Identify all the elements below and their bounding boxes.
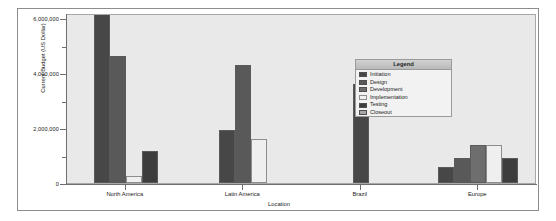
- legend-swatch-development: [359, 87, 367, 92]
- y-axis-line: [66, 14, 67, 185]
- plot-area: [66, 14, 536, 184]
- legend-label: Development: [370, 86, 402, 94]
- legend-swatch-design: [359, 80, 367, 85]
- legend-swatch-testing: [359, 103, 367, 108]
- x-axis-category-label: Latin America: [202, 191, 282, 197]
- chart-frame: 6,000,0004,000,0002,000,0000 Current Bud…: [17, 8, 539, 211]
- x-axis-category-label: Europe: [437, 191, 517, 197]
- legend-label: Closeout: [370, 109, 392, 117]
- legend-item-testing: Testing: [359, 101, 449, 109]
- bar-design-europe: [454, 158, 470, 183]
- x-axis-tick: [242, 185, 243, 190]
- y-axis-minor-tick: [62, 157, 66, 158]
- x-axis-category-label: North America: [85, 191, 165, 197]
- x-axis-tick: [477, 185, 478, 190]
- y-axis-minor-tick: [62, 47, 66, 48]
- bar-initiation-europe: [438, 167, 454, 183]
- legend-title: Legend: [356, 60, 451, 70]
- bar-development-europe: [470, 145, 486, 183]
- legend-label: Testing: [370, 101, 387, 109]
- bar-implementation-latin-america: [251, 139, 267, 183]
- legend-swatch-closeout: [359, 110, 367, 115]
- y-axis-tick: [60, 74, 66, 75]
- legend-label: Implementation: [370, 94, 408, 102]
- y-axis-tick-labels: 6,000,0004,000,0002,000,0000: [18, 9, 59, 194]
- legend-item-implementation: Implementation: [359, 94, 449, 102]
- x-axis-line: [66, 184, 537, 185]
- y-axis-minor-tick: [62, 102, 66, 103]
- bar-testing-europe: [502, 158, 518, 183]
- x-axis-category-label: Brazil: [320, 191, 400, 197]
- y-axis-tick-label: 0: [56, 181, 59, 187]
- x-axis-title: Location: [18, 201, 540, 207]
- legend-item-design: Design: [359, 79, 449, 87]
- legend-swatch-implementation: [359, 95, 367, 100]
- bar-initiation-north-america: [94, 15, 110, 183]
- y-axis-tick: [60, 184, 66, 185]
- legend-item-closeout: Closeout: [359, 109, 449, 117]
- y-axis-tick: [60, 19, 66, 20]
- y-axis-tick-label: 6,000,000: [33, 16, 59, 22]
- y-axis-tick-label: 4,000,000: [33, 71, 59, 77]
- legend-items: InitiationDesignDevelopmentImplementatio…: [356, 70, 451, 117]
- bar-initiation-latin-america: [219, 130, 235, 183]
- legend-label: Design: [370, 79, 387, 87]
- x-axis-tick: [360, 185, 361, 190]
- bar-design-latin-america: [235, 65, 251, 183]
- x-axis-tick: [125, 185, 126, 190]
- bar-testing-north-america: [142, 151, 158, 183]
- y-axis-tick: [60, 129, 66, 130]
- legend-label: Initiation: [370, 71, 391, 79]
- y-axis-title: Current Budget (US Dollar): [40, 10, 46, 106]
- legend-item-initiation: Initiation: [359, 71, 449, 79]
- bar-implementation-europe: [486, 145, 502, 183]
- bar-design-north-america: [110, 56, 126, 184]
- bar-chart: 6,000,0004,000,0002,000,0000 Current Bud…: [0, 0, 556, 221]
- legend: Legend InitiationDesignDevelopmentImplem…: [355, 59, 452, 117]
- bar-implementation-north-america: [126, 176, 142, 183]
- legend-swatch-initiation: [359, 72, 367, 77]
- bars-layer: [67, 15, 535, 183]
- legend-item-development: Development: [359, 86, 449, 94]
- y-axis-tick-label: 2,000,000: [33, 126, 59, 132]
